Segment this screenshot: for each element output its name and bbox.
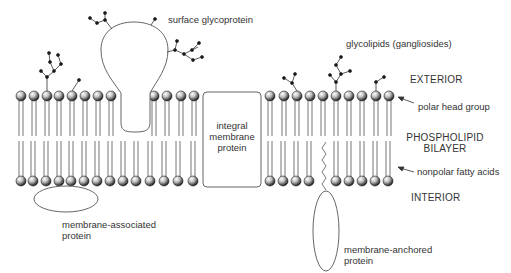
lipid-head [344,91,354,101]
label-phospholipid: PHOSPHOLIPID [405,132,485,143]
lipid-head [42,91,52,101]
lipid-head [188,176,198,186]
lipid-head [384,91,394,101]
membrane-associated-protein-shape [34,186,98,212]
lipid-head [162,91,172,101]
lipid-head [131,176,141,186]
lipid-head [318,91,328,101]
lipid-head [357,176,367,186]
lipid-head [29,91,39,101]
label-integral-membrane-protein: integral membrane protein [203,120,261,153]
label-interior: INTERIOR [411,192,460,203]
lipid-head [106,91,116,101]
lipid-head [279,91,289,101]
lipid-head [173,176,183,186]
label-anchored-protein: protein [344,255,432,266]
lipid-head [54,91,64,101]
lipid-head [54,176,64,186]
lipid-head [344,176,354,186]
lipid-head [278,176,288,186]
label-membrane-anchored-protein: membrane-anchored protein [344,244,432,266]
label-phospholipid-bilayer: PHOSPHOLIPID BILAYER [405,132,485,154]
lipid-head [304,176,314,186]
lipid-head [370,176,380,186]
lipid-head [383,176,393,186]
lipid-head [305,91,315,101]
lipid-head [93,91,103,101]
lipid-head [189,91,199,101]
label-assoc-protein: protein [62,230,156,241]
label-exterior: EXTERIOR [410,74,463,85]
label-glycolipids: glycolipids (gangliosides) [346,38,452,49]
label-membrane-anchored: membrane-anchored [344,244,432,255]
label-integral: integral [203,120,261,131]
lipid-head [357,91,367,101]
label-membrane-associated-protein: membrane-associated protein [62,219,156,241]
lipid-head [291,176,301,186]
lipid-head [292,91,302,101]
lipid-head [105,176,115,186]
lipid-head [145,176,155,186]
label-surface-glycoprotein: surface glycoprotein [168,14,253,25]
label-membrane: membrane [203,131,261,142]
lipid-head [80,91,90,101]
surface-glycoprotein-shape [101,22,168,132]
label-polar-head-group: polar head group [418,101,490,112]
lipid-head [265,91,275,101]
lipid-head [118,176,128,186]
lipid-head [79,176,89,186]
lipid-head [159,176,169,186]
lipid-head [331,91,341,101]
lipid-head [176,91,186,101]
label-protein: protein [203,142,261,153]
lipid-head [41,176,51,186]
label-bilayer: BILAYER [405,143,485,154]
lipid-head [265,176,275,186]
lipid-head [28,176,38,186]
membrane-anchored-protein-shape [313,191,339,271]
lipid-head [371,91,381,101]
lipid-head [331,176,341,186]
lipid-head [67,91,77,101]
lipid-head [92,176,102,186]
lipid-head [16,91,26,101]
label-membrane-associated: membrane-associated [62,219,156,230]
lipid-head [16,176,26,186]
lipid-anchor-zigzag [322,142,326,190]
lipid-head [66,176,76,186]
label-nonpolar-fatty-acids: nonpolar fatty acids [417,166,499,177]
